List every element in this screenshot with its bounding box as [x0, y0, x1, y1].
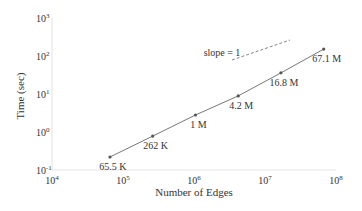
- series-line: [110, 49, 324, 157]
- slope-label: slope = 1: [204, 47, 241, 58]
- x-tick-label: 105: [116, 174, 130, 186]
- point-label: 16.8 M: [270, 77, 299, 88]
- axes: [52, 18, 336, 170]
- x-tick-label: 108: [329, 174, 343, 186]
- data-point: [237, 94, 240, 97]
- point-label: 67.1 M: [312, 53, 341, 64]
- slope-reference-line: [232, 40, 290, 60]
- x-tick-label: 104: [45, 174, 59, 186]
- y-tick-labels: 10-1100101102103: [36, 12, 52, 176]
- log-log-chart: 104105106107108 10-1100101102103 Number …: [0, 0, 362, 211]
- data-series: 65.5 K262 K1 M4.2 M16.8 M67.1 M: [99, 47, 341, 171]
- x-tick-label: 107: [258, 174, 272, 186]
- y-tick-label: 103: [36, 12, 50, 24]
- data-point: [194, 113, 197, 116]
- y-tick-label: 102: [36, 50, 50, 62]
- data-point: [108, 155, 111, 158]
- y-tick-label: 100: [36, 126, 50, 138]
- point-label: 65.5 K: [99, 161, 127, 172]
- point-label: 262 K: [143, 140, 169, 151]
- y-axis-label: Time (sec): [14, 72, 27, 119]
- x-tick-label: 106: [187, 174, 201, 186]
- x-axis-label: Number of Edges: [155, 186, 233, 198]
- data-point: [322, 47, 325, 50]
- point-label: 4.2 M: [229, 100, 253, 111]
- point-label: 1 M: [190, 119, 207, 130]
- y-tick-label: 101: [36, 88, 50, 100]
- data-point: [279, 71, 282, 74]
- data-point: [151, 135, 154, 138]
- x-tick-labels: 104105106107108: [45, 174, 343, 186]
